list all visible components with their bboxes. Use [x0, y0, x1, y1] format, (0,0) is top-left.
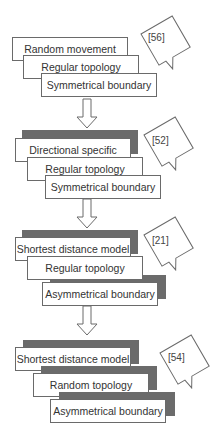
citation-label: [52]	[152, 135, 169, 146]
connectors: [56] [52] [21] [54]	[0, 0, 210, 441]
citation-label: [21]	[152, 235, 169, 246]
citation-label: [56]	[148, 32, 165, 43]
down-arrow-icon	[77, 99, 97, 128]
citation-callout	[141, 16, 195, 74]
citation-label: [54]	[168, 352, 185, 363]
citation-callout	[160, 335, 210, 393]
down-arrow-icon	[77, 306, 97, 335]
down-arrow-icon	[77, 199, 97, 228]
